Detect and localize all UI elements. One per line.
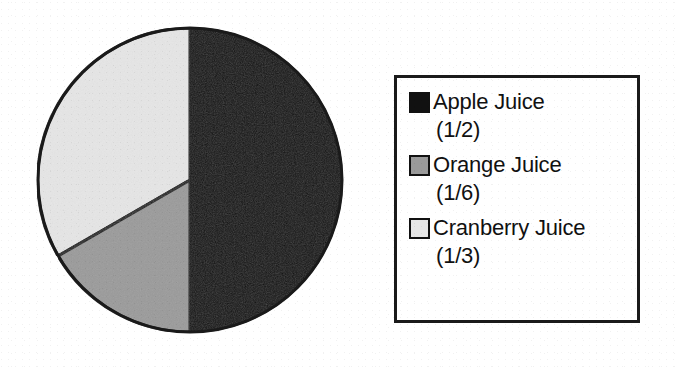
swatch-apple-juice-icon	[409, 92, 430, 113]
legend-entry-cranberry-juice[interactable]: Cranberry Juice (1/3)	[409, 214, 633, 269]
legend-label-cranberry-juice: Cranberry Juice	[433, 214, 585, 241]
pie-slice-apple-juice[interactable]	[190, 28, 342, 332]
chart-legend: Apple Juice (1/2) Orange Juice (1/6) Cra…	[394, 75, 640, 323]
legend-label-orange-juice: Orange Juice	[433, 151, 561, 178]
legend-fraction-orange-juice: (1/6)	[436, 179, 633, 206]
legend-row-apple-juice: Apple Juice	[409, 88, 633, 116]
pie-chart-svg	[30, 20, 352, 352]
pie-chart	[30, 20, 352, 352]
legend-row-cranberry-juice: Cranberry Juice	[409, 214, 633, 242]
legend-fraction-apple-juice: (1/2)	[436, 116, 633, 143]
swatch-orange-juice-icon	[409, 155, 430, 176]
swatch-cranberry-juice-icon	[409, 218, 430, 239]
pie-chart-figure: Apple Juice (1/2) Orange Juice (1/6) Cra…	[0, 0, 677, 372]
legend-entry-orange-juice[interactable]: Orange Juice (1/6)	[409, 151, 633, 206]
legend-entry-list: Apple Juice (1/2) Orange Juice (1/6) Cra…	[409, 88, 633, 269]
legend-label-apple-juice: Apple Juice	[433, 88, 545, 115]
legend-fraction-cranberry-juice: (1/3)	[436, 242, 633, 269]
legend-entry-apple-juice[interactable]: Apple Juice (1/2)	[409, 88, 633, 143]
legend-row-orange-juice: Orange Juice	[409, 151, 633, 179]
